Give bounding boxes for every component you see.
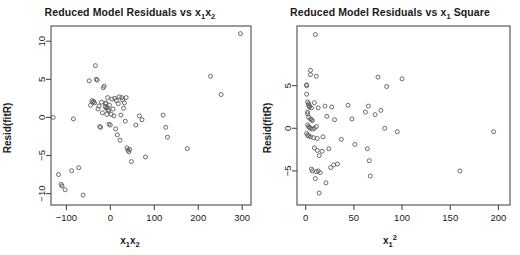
- data-point: [321, 135, 325, 139]
- x-tick-label: 200: [491, 212, 507, 223]
- data-point: [56, 173, 60, 177]
- data-point: [140, 118, 144, 122]
- data-point: [400, 77, 404, 81]
- data-point: [219, 93, 223, 97]
- data-point: [316, 106, 320, 110]
- data-point: [315, 148, 319, 152]
- data-point: [108, 123, 112, 127]
- data-point: [376, 75, 380, 79]
- data-point: [115, 133, 119, 137]
- data-point: [367, 159, 371, 163]
- data-point: [93, 64, 97, 68]
- data-point: [366, 104, 370, 108]
- data-point: [383, 126, 387, 130]
- scatter-panel-left: Reduced Model Residuals vs x1x2 −1000100…: [0, 0, 260, 255]
- data-point: [312, 101, 316, 105]
- data-point: [119, 113, 123, 117]
- data-point: [63, 188, 67, 192]
- data-point: [314, 74, 318, 78]
- data-point: [51, 115, 55, 119]
- data-point: [114, 127, 118, 131]
- data-point: [110, 97, 114, 101]
- data-point: [165, 135, 169, 139]
- x-tick-label: 300: [234, 212, 250, 223]
- data-point: [330, 105, 334, 109]
- panel-left-xlabel: x1x2: [0, 235, 260, 249]
- y-tick-label: 0: [37, 115, 48, 120]
- x-tick-label: 150: [442, 212, 458, 223]
- x-tick-label: 200: [190, 212, 206, 223]
- panel-left-plot: −1000100200300−10−50510: [0, 0, 260, 255]
- panel-right-plot: 050100150200−505: [260, 0, 520, 255]
- data-point: [137, 114, 141, 118]
- data-point: [379, 108, 383, 112]
- data-point: [332, 163, 336, 167]
- data-point: [117, 95, 121, 99]
- data-point: [335, 162, 339, 166]
- data-point: [209, 74, 213, 78]
- data-point: [458, 169, 462, 173]
- data-point: [313, 177, 317, 181]
- data-point: [333, 118, 337, 122]
- data-point: [122, 106, 126, 110]
- data-point: [363, 110, 367, 114]
- data-point: [100, 100, 104, 104]
- data-point: [339, 137, 343, 141]
- data-point: [129, 160, 133, 164]
- y-tick-label: 10: [37, 36, 48, 47]
- data-point: [308, 68, 312, 72]
- panel-right-xlabel: x12: [260, 233, 520, 249]
- data-point: [346, 103, 350, 107]
- x-tick-label: 0: [303, 212, 308, 223]
- data-point: [385, 85, 389, 89]
- data-point: [395, 130, 399, 134]
- data-point: [81, 193, 85, 197]
- figure-container: Reduced Model Residuals vs x1x2 −1000100…: [0, 0, 520, 255]
- x-tick-label: 0: [108, 212, 113, 223]
- data-point: [373, 113, 377, 117]
- data-point: [365, 147, 369, 151]
- panel-right-ylabel: Resid(fitR): [262, 102, 273, 153]
- data-point: [106, 96, 110, 100]
- data-point: [123, 119, 127, 123]
- y-tick-label: 5: [283, 83, 294, 88]
- x-tick-label: 100: [394, 212, 410, 223]
- data-point: [238, 32, 242, 36]
- data-point: [100, 111, 104, 115]
- data-point: [492, 130, 496, 134]
- x-tick-label: 50: [349, 212, 360, 223]
- data-point: [118, 138, 122, 142]
- data-point: [71, 117, 75, 121]
- data-point: [161, 113, 165, 117]
- y-tick-label: −10: [37, 186, 48, 202]
- data-point: [185, 147, 189, 151]
- data-point: [353, 142, 357, 146]
- y-tick-label: 5: [37, 77, 48, 82]
- data-point: [317, 154, 321, 158]
- data-point: [111, 107, 115, 111]
- data-point: [77, 166, 81, 170]
- data-point: [164, 125, 168, 129]
- data-point: [350, 117, 354, 121]
- data-point: [87, 79, 91, 83]
- data-point: [305, 92, 309, 96]
- data-point: [134, 123, 138, 127]
- y-tick-label: 0: [283, 126, 294, 131]
- data-point: [315, 137, 319, 141]
- data-point: [70, 169, 74, 173]
- data-point: [368, 174, 372, 178]
- scatter-panel-right: Reduced Model Residuals vs x1 Square 050…: [260, 0, 520, 255]
- data-point: [144, 155, 148, 159]
- data-point: [327, 147, 331, 151]
- data-point: [324, 181, 328, 185]
- y-tick-label: −5: [37, 150, 48, 161]
- data-point: [124, 96, 128, 100]
- data-point: [317, 191, 321, 195]
- data-point: [323, 104, 327, 108]
- data-point: [325, 114, 329, 118]
- x-tick-label: 100: [146, 212, 162, 223]
- panel-left-ylabel: Resid(fitR): [2, 102, 13, 153]
- data-point: [313, 33, 317, 37]
- y-tick-label: −5: [283, 165, 294, 176]
- x-tick-label: −100: [56, 212, 77, 223]
